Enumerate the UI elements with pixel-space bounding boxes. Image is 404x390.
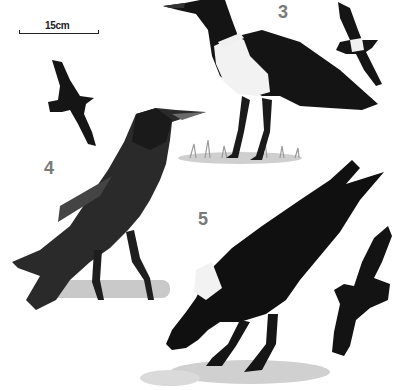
rook-perched [12, 108, 206, 310]
figure-number-3: 3 [278, 2, 288, 23]
figure-number-5: 5 [198, 209, 208, 230]
figure-number-4: 4 [44, 158, 54, 179]
white-necked-raven-flying [332, 226, 392, 356]
illustration-plate: 15cm [0, 0, 404, 390]
rock-patch [140, 360, 330, 386]
birds-artwork [0, 0, 404, 390]
rook-flying [48, 60, 96, 146]
